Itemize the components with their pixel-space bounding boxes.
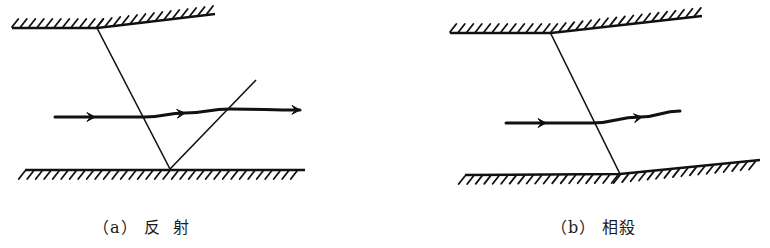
- wave-front-line: [170, 80, 256, 169]
- wave-front-line: [97, 28, 170, 169]
- wave-front-line: [551, 34, 620, 174]
- flow-path: [506, 111, 680, 123]
- caption-a: （a） 反 射: [93, 214, 190, 238]
- diagram-canvas: [0, 0, 770, 248]
- panel-a-reflection: [12, 6, 305, 179]
- top-wall: [450, 8, 702, 33]
- caption-b: （b） 相殺: [551, 214, 636, 238]
- top-wall: [12, 6, 215, 28]
- bottom-wall: [19, 170, 305, 179]
- panel-b-cancellation: [450, 8, 760, 184]
- bottom-wall: [459, 160, 760, 184]
